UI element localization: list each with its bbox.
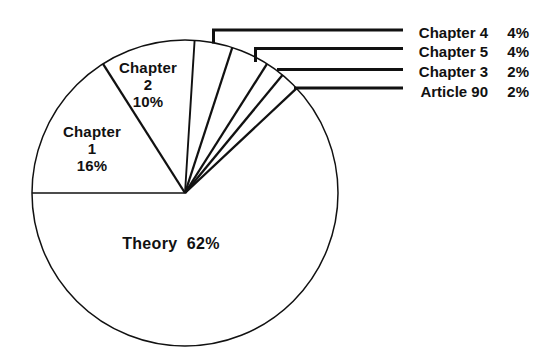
slice-label-line: Chapter [63, 123, 121, 140]
slice-label-line: 16% [63, 157, 121, 174]
callout-row-article-90: Article 90 2% [392, 81, 529, 101]
slice-label-line: 1 [63, 140, 121, 157]
callout-value: 2% [488, 63, 529, 80]
callout-row-chapter-4: Chapter 4 4% [392, 22, 529, 42]
callout-value: 4% [488, 43, 529, 60]
slice-label-line: 10% [119, 93, 177, 110]
pie-chart-figure: Chapter 1 16% Chapter 2 10% Theory 62% C… [0, 0, 554, 361]
slice-label-chapter-1: Chapter 1 16% [63, 123, 121, 174]
slice-label-line: Chapter [119, 59, 177, 76]
callout-row-chapter-5: Chapter 5 4% [392, 41, 529, 61]
slice-label-line: 2 [119, 76, 177, 93]
callout-label: Article 90 [392, 83, 488, 100]
callout-leader-line [214, 30, 404, 44]
callout-label: Chapter 3 [392, 63, 488, 80]
callout-label: Chapter 4 [392, 24, 488, 41]
callout-value: 4% [488, 24, 529, 41]
callout-label: Chapter 5 [392, 43, 488, 60]
callout-value: 2% [488, 83, 529, 100]
slice-label-theory: Theory 62% [122, 235, 220, 253]
callout-row-chapter-3: Chapter 3 2% [392, 61, 529, 81]
callout-leader-line [256, 49, 404, 63]
slice-label-chapter-2: Chapter 2 10% [119, 59, 177, 110]
